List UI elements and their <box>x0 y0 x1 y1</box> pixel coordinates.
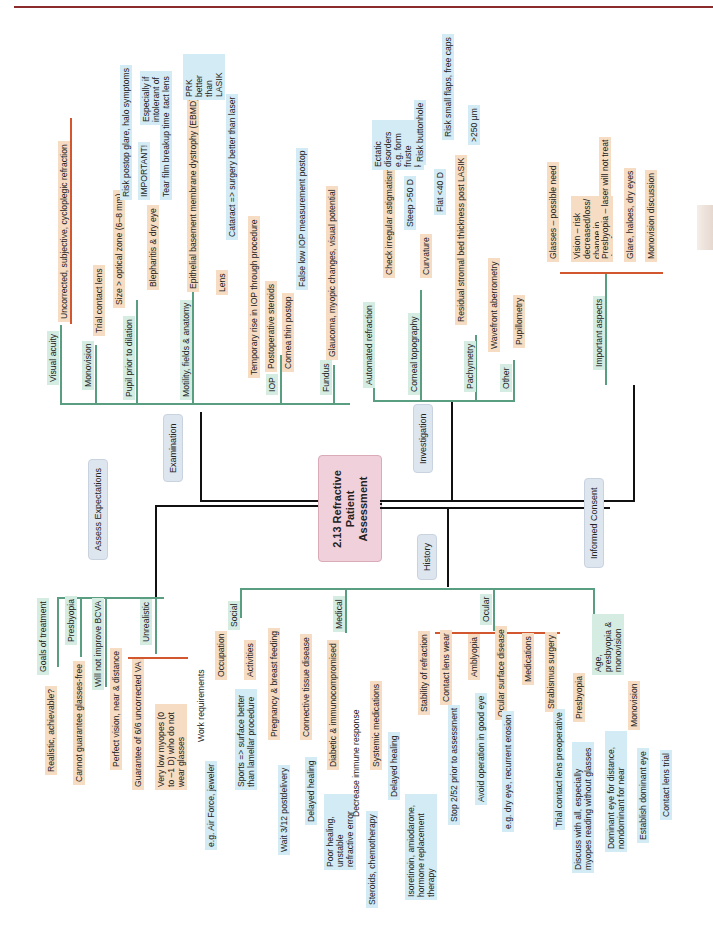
node-other: Other <box>500 365 512 393</box>
connector-line <box>192 290 194 405</box>
node-dry-eye: e.g. dry eye, recurrent erosion <box>502 711 514 832</box>
node-bcva: Will not improve BCVA <box>92 598 104 690</box>
node-establish-dominant: Establish dominant eye <box>637 748 649 843</box>
node-monovision-age: Monovision <box>628 681 640 730</box>
category-examination[interactable]: Examination <box>163 414 183 482</box>
node-wavefront: Wavefront aberrometry <box>488 258 500 352</box>
node-important-aspects: Important aspects <box>593 296 605 370</box>
node-prk: PRK better than LASIK <box>183 54 225 100</box>
category-history[interactable]: History <box>417 534 437 580</box>
node-monovision: Monovision <box>82 341 94 390</box>
node-check-irregular: Check irregular astigmatism <box>383 166 395 279</box>
node-decrease-immune: Decrease immune response <box>350 707 362 820</box>
node-realistic: Realistic, achievable? <box>45 686 57 775</box>
node-age-presbyopia: Age, presbyopia & monovision <box>592 614 624 675</box>
connector-line <box>493 588 495 631</box>
node-risk-buttonhole: Risk buttonhole <box>414 100 426 165</box>
node-cornea-thin: Cornea thin postop <box>282 293 294 372</box>
node-medical: Medical <box>333 596 345 632</box>
connector-line <box>155 597 157 654</box>
node-social: Social <box>228 601 240 630</box>
node-risk-glare: Risk postop glare, halo symptoms <box>120 65 132 200</box>
connector-line <box>80 597 82 657</box>
node-goals: Goals of treatment <box>37 598 49 675</box>
center-node: 2.13 Refractive Patient Assessment <box>318 455 382 562</box>
node-presbyopia-expect: Presbyopia <box>65 596 77 645</box>
connector-line <box>95 345 97 405</box>
node-iop: IOP <box>266 374 278 395</box>
node-refraction: Uncorrected, subjective, cycloplegic ref… <box>58 141 70 322</box>
connector-line <box>70 118 72 324</box>
connector-line <box>420 290 422 402</box>
node-amblyopia: Amblyopia <box>468 634 480 680</box>
node-250um: >250 μm <box>468 105 480 145</box>
connector-line <box>345 588 347 633</box>
node-presbyopia-laser: Presbyopia – laser will not treat <box>599 137 611 262</box>
node-temp-rise: Temporary rise in IOP through procedure <box>248 216 260 378</box>
node-monovision-discussion: Monovision discussion <box>645 170 657 262</box>
node-medications: Medications <box>522 633 534 685</box>
node-ebmd: Epithelial basement membrane dystrophy (… <box>187 95 199 292</box>
connector-line <box>105 597 107 687</box>
node-perfect-vision: Perfect vision, near & distance <box>110 648 122 770</box>
header-rule <box>14 6 713 8</box>
chapter-tab <box>697 205 713 250</box>
node-visual-acuity: Visual acuity <box>47 331 59 385</box>
category-investigation[interactable]: Investigation <box>413 404 433 473</box>
center-title: 2.13 Refractive Patient Assessment <box>331 461 370 556</box>
connector-line <box>240 588 242 618</box>
connector-line <box>373 400 513 402</box>
node-cataract: Cataract => surgery better than laser <box>226 94 238 240</box>
category-assess-expectations[interactable]: Assess Expectations <box>88 459 108 560</box>
connector-line <box>605 272 607 385</box>
node-systemic-meds: Systemic medications <box>370 681 382 770</box>
node-glare: Glare, haloes, dry eyes <box>624 168 636 262</box>
node-motility: Motility, fields & anatomy <box>180 300 192 400</box>
connector-line <box>200 500 318 502</box>
node-automated-refraction: Automated refraction <box>363 302 375 388</box>
connector-line <box>60 403 350 405</box>
node-fundus: Fundus <box>320 360 332 395</box>
node-important: IMPORTANT! <box>138 142 150 200</box>
node-isotretinoin: Isoretinoin, amiodarone, hormone replace… <box>405 794 437 900</box>
connector-line <box>560 272 663 274</box>
node-diabetic: Diabetic & immunocompromised <box>327 640 339 770</box>
node-activities: Activities <box>244 640 256 680</box>
node-steroids-chemo: Steroids, chemotherapy <box>366 811 378 908</box>
node-work-requirements: Work requirements <box>195 667 207 745</box>
node-curvature: Curvature <box>420 234 432 278</box>
node-pregnancy: Pregnancy & breast feeding <box>268 628 280 740</box>
node-occupation: Occupation <box>215 631 227 680</box>
node-pachymetry: Pachymetry <box>464 341 476 392</box>
node-pupillometry: Pupillometry <box>513 295 525 348</box>
node-tear-film: Tear film breakup time <box>160 109 172 200</box>
node-contact-lens-wear: Contact lens wear <box>440 630 452 705</box>
node-avoid-operation: Avoid operation in good eye <box>475 693 487 805</box>
node-stability: Stability of refraction <box>418 631 430 715</box>
node-cl-trial: Contact lens trial <box>660 750 672 820</box>
connector-line <box>333 365 335 405</box>
node-strabismus: Strabismus surgery <box>545 632 557 712</box>
node-residual-stromal: Residual stromal bed thickness post LASI… <box>455 155 467 325</box>
node-connective: Connective tissue disease <box>300 634 312 740</box>
node-discuss-all: Discuss with all, especially myopes read… <box>572 742 594 873</box>
node-glasses: Glasses – possible need <box>547 162 559 262</box>
node-steep: Steep >50 D <box>404 176 416 230</box>
node-blepharitis: Blepharitis & dry eye <box>147 205 159 290</box>
node-guarantee-66: Guarantee of 6/6 uncorrected VA <box>132 659 144 790</box>
node-ocular-surface: Ocular surface disease <box>495 626 507 720</box>
node-low-myopes: Very low myopes (0 to –1 D) who do not w… <box>155 704 187 790</box>
node-wait: Wait 3/12 postdelivery <box>278 765 290 855</box>
node-pupil: Pupil prior to dilation <box>123 316 135 400</box>
node-flat: Flat <40 D <box>434 169 446 215</box>
node-air-force: e.g. Air Force, jeweler <box>205 761 217 850</box>
connector-line <box>513 360 515 402</box>
connector-line <box>60 325 62 405</box>
node-trial-contact-lens: Trial contact lens <box>93 265 105 336</box>
node-postop-steroids: Postoperative steroids <box>265 281 277 372</box>
node-presbyopia-age: Presbyopia <box>573 673 585 722</box>
connector-line <box>380 503 382 505</box>
node-dominant-eye: Dominant eye for distance, nondominant f… <box>605 731 627 852</box>
node-stop-252: Stop 2/52 prior to assessment <box>448 705 460 825</box>
category-informed-consent[interactable]: Informed Consent <box>584 478 604 568</box>
